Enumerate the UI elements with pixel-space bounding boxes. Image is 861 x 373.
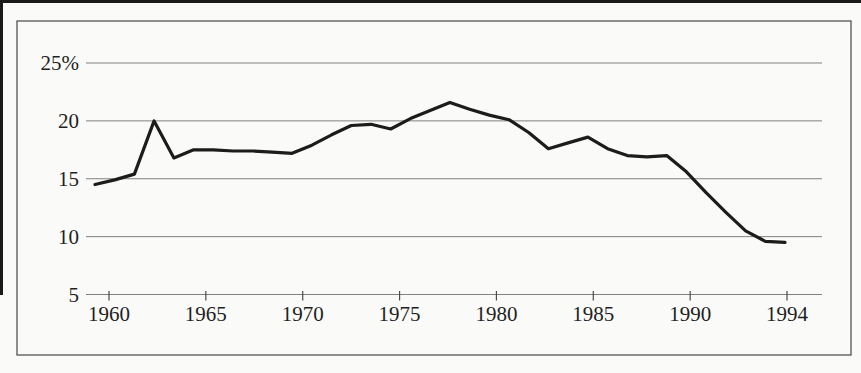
y-axis-label: 20 [58,109,79,133]
x-axis-label: 1980 [475,302,517,326]
x-axis-label: 1994 [766,302,809,326]
y-axis-label: 5 [69,283,80,307]
x-axis-label: 1975 [379,302,421,326]
page: 25%2015105196019651970197519801985199019… [0,0,861,373]
x-axis-label: 1970 [282,302,324,326]
y-axis-label: 10 [58,225,79,249]
x-axis-label: 1985 [572,302,614,326]
data-series-line [95,102,785,242]
chart-frame [17,21,851,355]
y-axis-label: 25% [41,51,80,75]
x-axis-label: 1990 [669,302,711,326]
y-axis-label: 15 [58,167,79,191]
x-axis-label: 1960 [88,302,130,326]
line-chart: 25%2015105196019651970197519801985199019… [0,0,861,373]
x-axis-label: 1965 [185,302,227,326]
